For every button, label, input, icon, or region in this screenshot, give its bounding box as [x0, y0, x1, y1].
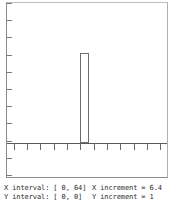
y-axis-tick — [7, 37, 12, 38]
y-axis-tick — [7, 72, 12, 73]
x-increment-label: X increment = 6.4 — [92, 184, 162, 193]
x-axis-tick — [147, 144, 148, 150]
y-axis-tick — [7, 3, 12, 4]
y-increment-label: Y increment = 1 — [92, 193, 154, 202]
x-axis-tick — [160, 144, 161, 150]
x-axis-tick — [14, 144, 15, 150]
y-axis-tick — [7, 123, 12, 124]
plot-frame — [6, 2, 168, 178]
plot-area — [7, 3, 167, 177]
y-axis-tick — [7, 55, 12, 56]
x-axis-tick — [27, 144, 28, 150]
plot-window: X interval: [ 0, 64] X increment = 6.4 Y… — [0, 0, 175, 203]
y-interval-label: Y interval: [ 0, 0] — [4, 193, 82, 202]
x-axis — [7, 143, 167, 144]
y-axis-tick — [7, 106, 12, 107]
x-axis-tick — [67, 144, 68, 150]
x-axis-tick — [94, 144, 95, 150]
status-line-x: X interval: [ 0, 64] X increment = 6.4 — [0, 184, 175, 193]
x-axis-tick — [54, 144, 55, 150]
x-axis-tick — [134, 144, 135, 150]
status-line-y: Y interval: [ 0, 0] Y increment = 1 — [0, 193, 175, 202]
x-axis-tick — [120, 144, 121, 150]
y-axis-tick — [7, 141, 12, 142]
bar — [80, 53, 89, 143]
x-axis-tick — [80, 144, 81, 150]
y-axis-tick — [7, 158, 12, 159]
status-readout: X interval: [ 0, 64] X increment = 6.4 Y… — [0, 184, 175, 202]
y-axis-tick — [7, 20, 12, 21]
y-axis-tick — [7, 175, 12, 176]
x-axis-tick — [40, 144, 41, 150]
x-interval-label: X interval: [ 0, 64] — [4, 184, 86, 193]
x-axis-tick — [107, 144, 108, 150]
y-axis-tick — [7, 89, 12, 90]
